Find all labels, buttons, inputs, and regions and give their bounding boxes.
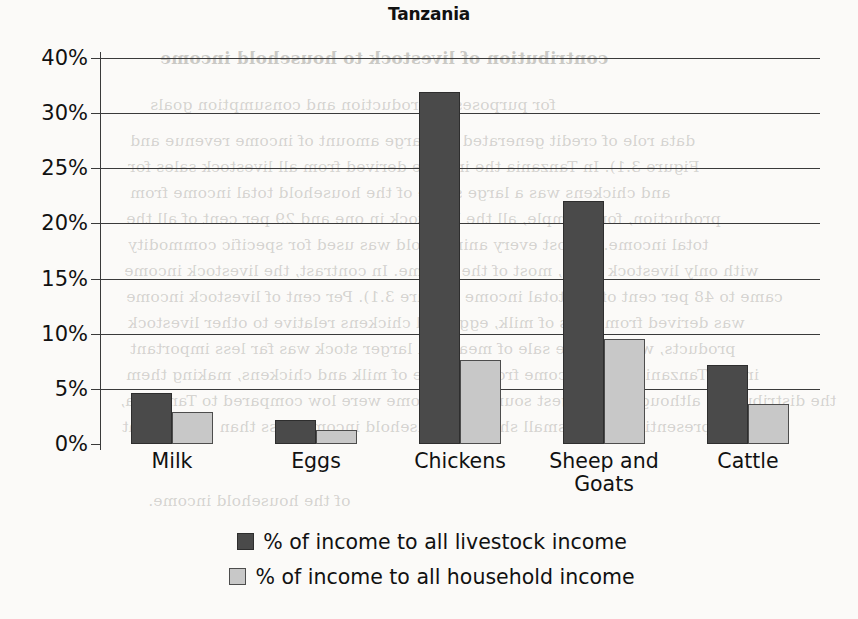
- gridline: [100, 168, 820, 169]
- x-axis-tick-label: Chickens: [388, 450, 532, 473]
- gridline: [100, 223, 820, 224]
- legend-item-household: % of income to all household income: [0, 559, 858, 594]
- plot-area: [100, 58, 820, 444]
- gridline: [100, 113, 820, 114]
- y-axis-tick: [91, 279, 100, 280]
- gridline: [100, 334, 820, 335]
- legend-label: % of income to all livestock income: [263, 530, 627, 554]
- y-axis-tick-label: 30%: [8, 101, 88, 125]
- y-axis-tick: [91, 444, 100, 445]
- y-axis-tick-label: 0%: [8, 432, 88, 456]
- bar: [748, 404, 789, 444]
- gridline: [100, 279, 820, 280]
- bar: [172, 412, 213, 444]
- x-axis-labels: MilkEggsChickensSheep and GoatsCattle: [100, 450, 820, 510]
- y-axis-tick: [91, 113, 100, 114]
- bar: [604, 339, 645, 444]
- bar: [275, 420, 316, 444]
- legend-label: % of income to all household income: [255, 565, 634, 589]
- legend-swatch-dark-icon: [237, 533, 254, 550]
- y-axis-tick-label: 20%: [8, 211, 88, 235]
- y-axis-tick-label: 5%: [8, 377, 88, 401]
- y-axis-tick-label: 15%: [8, 267, 88, 291]
- gridline: [100, 58, 820, 59]
- bar: [460, 360, 501, 444]
- y-axis-tick: [91, 168, 100, 169]
- x-axis-tick-label: Milk: [100, 450, 244, 473]
- chart-title: Tanzania: [0, 4, 858, 24]
- bar: [316, 430, 357, 444]
- y-axis-tick: [91, 389, 100, 390]
- legend-swatch-light-icon: [229, 568, 246, 585]
- bar: [563, 201, 604, 444]
- legend-item-livestock: % of income to all livestock income: [0, 524, 858, 559]
- y-axis-tick-label: 40%: [8, 46, 88, 70]
- y-axis-tick-label: 10%: [8, 322, 88, 346]
- y-axis-tick: [91, 334, 100, 335]
- bar: [419, 92, 460, 444]
- y-axis-tick: [91, 223, 100, 224]
- y-axis-tick: [91, 58, 100, 59]
- bar: [131, 393, 172, 444]
- x-axis-tick-label: Cattle: [676, 450, 820, 473]
- x-axis-tick-label: Sheep and Goats: [532, 450, 676, 496]
- bar: [707, 365, 748, 444]
- x-axis-tick-label: Eggs: [244, 450, 388, 473]
- chart-legend: % of income to all livestock income % of…: [0, 524, 858, 594]
- y-axis-tick-label: 25%: [8, 156, 88, 180]
- bar-chart: Tanzania 0%5%10%15%20%25%30%40% MilkEggs…: [0, 0, 858, 619]
- y-axis-line: [100, 52, 101, 450]
